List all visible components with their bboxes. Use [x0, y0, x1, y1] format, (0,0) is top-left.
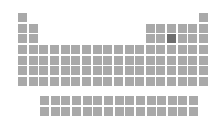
- element-cell-tl[interactable]: Tl: [146, 66, 155, 75]
- element-cell-ac[interactable]: Ac: [39, 77, 48, 86]
- element-cell-rn[interactable]: Rn: [199, 66, 208, 75]
- element-cell-tm[interactable]: Tm: [157, 96, 166, 105]
- element-cell-re[interactable]: Re: [82, 66, 91, 75]
- element-cell-cs[interactable]: Cs: [18, 66, 27, 75]
- element-cell-cd[interactable]: Cd: [135, 56, 144, 65]
- element-cell-at[interactable]: At: [188, 66, 197, 75]
- element-cell-ce[interactable]: Ce: [40, 96, 49, 105]
- element-cell-al[interactable]: Al: [146, 34, 155, 43]
- element-cell-hs[interactable]: Hs: [93, 77, 102, 86]
- element-cell-cf[interactable]: Cf: [125, 107, 134, 116]
- element-cell-i[interactable]: I: [188, 56, 197, 65]
- element-cell-lr[interactable]: Lr: [178, 107, 187, 116]
- element-cell-na[interactable]: Na: [18, 34, 27, 43]
- element-cell-ba[interactable]: Ba: [29, 66, 38, 75]
- element-cell-p[interactable]: P: [167, 34, 176, 43]
- element-cell-cn[interactable]: Cn: [135, 77, 144, 86]
- element-cell-sr[interactable]: Sr: [29, 56, 38, 65]
- element-cell-db[interactable]: Db: [61, 77, 70, 86]
- element-cell-mn[interactable]: Mn: [82, 45, 91, 54]
- element-cell-hf[interactable]: Hf: [50, 66, 59, 75]
- element-cell-hg[interactable]: Hg: [135, 66, 144, 75]
- element-cell-lv[interactable]: Lv: [178, 77, 187, 86]
- element-cell-pa[interactable]: Pa: [51, 107, 60, 116]
- element-cell-rh[interactable]: Rh: [103, 56, 112, 65]
- element-cell-pr[interactable]: Pr: [51, 96, 60, 105]
- element-cell-rb[interactable]: Rb: [18, 56, 27, 65]
- element-cell-no[interactable]: No: [168, 107, 177, 116]
- element-cell-fr[interactable]: Fr: [18, 77, 27, 86]
- element-cell-in[interactable]: In: [146, 56, 155, 65]
- element-cell-ga[interactable]: Ga: [146, 45, 155, 54]
- element-cell-ge[interactable]: Ge: [156, 45, 165, 54]
- element-cell-rf[interactable]: Rf: [50, 77, 59, 86]
- element-cell-s[interactable]: S: [178, 34, 187, 43]
- element-cell-ds[interactable]: Ds: [114, 77, 123, 86]
- element-cell-te[interactable]: Te: [178, 56, 187, 65]
- element-cell-c[interactable]: C: [156, 24, 165, 33]
- element-cell-he[interactable]: He: [199, 13, 208, 22]
- element-cell-co[interactable]: Co: [103, 45, 112, 54]
- element-cell-sc[interactable]: Sc: [39, 45, 48, 54]
- element-cell-as[interactable]: As: [167, 45, 176, 54]
- element-cell-v[interactable]: V: [61, 45, 70, 54]
- element-cell-gd[interactable]: Gd: [104, 96, 113, 105]
- element-cell-kr[interactable]: Kr: [199, 45, 208, 54]
- element-cell-zn[interactable]: Zn: [135, 45, 144, 54]
- element-cell-au[interactable]: Au: [125, 66, 134, 75]
- element-cell-cl[interactable]: Cl: [188, 34, 197, 43]
- element-cell-nh[interactable]: Nh: [146, 77, 155, 86]
- element-cell-pd[interactable]: Pd: [114, 56, 123, 65]
- element-cell-sg[interactable]: Sg: [71, 77, 80, 86]
- element-cell-th[interactable]: Th: [40, 107, 49, 116]
- element-cell-nd[interactable]: Nd: [61, 96, 70, 105]
- element-cell-ts[interactable]: Ts: [188, 77, 197, 86]
- element-cell-ho[interactable]: Ho: [136, 96, 145, 105]
- element-cell-fl[interactable]: Fl: [156, 77, 165, 86]
- element-cell-la[interactable]: La*: [189, 96, 198, 105]
- element-cell-pu[interactable]: Pu: [83, 107, 92, 116]
- element-cell-bh[interactable]: Bh: [82, 77, 91, 86]
- element-cell-bk[interactable]: Bk: [115, 107, 124, 116]
- element-cell-pb[interactable]: Pb: [156, 66, 165, 75]
- element-cell-ne[interactable]: Ne: [199, 24, 208, 33]
- element-cell-sb[interactable]: Sb: [167, 56, 176, 65]
- element-cell-u[interactable]: U: [61, 107, 70, 116]
- element-cell-md[interactable]: Md: [157, 107, 166, 116]
- element-cell-k[interactable]: K: [18, 45, 27, 54]
- element-cell-nb[interactable]: Nb: [61, 56, 70, 65]
- element-cell-la[interactable]: La: [39, 66, 48, 75]
- element-cell-am[interactable]: Am: [93, 107, 102, 116]
- element-cell-be[interactable]: Be: [29, 24, 38, 33]
- element-cell-eu[interactable]: Eu: [93, 96, 102, 105]
- element-cell-ag[interactable]: Ag: [125, 56, 134, 65]
- element-cell-og[interactable]: Og: [199, 77, 208, 86]
- element-cell-ru[interactable]: Ru: [93, 56, 102, 65]
- element-cell-mt[interactable]: Mt: [103, 77, 112, 86]
- element-cell-sn[interactable]: Sn: [156, 56, 165, 65]
- element-cell-pm[interactable]: Pm: [72, 96, 81, 105]
- element-cell-ac[interactable]: Ac*: [189, 107, 198, 116]
- element-cell-se[interactable]: Se: [178, 45, 187, 54]
- element-cell-ar[interactable]: Ar: [199, 34, 208, 43]
- element-cell-mo[interactable]: Mo: [71, 56, 80, 65]
- element-cell-fm[interactable]: Fm: [147, 107, 156, 116]
- element-cell-cu[interactable]: Cu: [125, 45, 134, 54]
- element-cell-es[interactable]: Es: [136, 107, 145, 116]
- element-cell-rg[interactable]: Rg: [125, 77, 134, 86]
- element-cell-dy[interactable]: Dy: [125, 96, 134, 105]
- element-cell-cm[interactable]: Cm: [104, 107, 113, 116]
- element-cell-ti[interactable]: Ti: [50, 45, 59, 54]
- element-cell-cr[interactable]: Cr: [71, 45, 80, 54]
- element-cell-br[interactable]: Br: [188, 45, 197, 54]
- element-cell-b[interactable]: B: [146, 24, 155, 33]
- element-cell-w[interactable]: W: [71, 66, 80, 75]
- element-cell-ta[interactable]: Ta: [61, 66, 70, 75]
- element-cell-po[interactable]: Po: [178, 66, 187, 75]
- element-cell-lu[interactable]: Lu: [178, 96, 187, 105]
- element-cell-xe[interactable]: Xe: [199, 56, 208, 65]
- element-cell-np[interactable]: Np: [72, 107, 81, 116]
- element-cell-li[interactable]: Li: [18, 24, 27, 33]
- element-cell-ir[interactable]: Ir: [103, 66, 112, 75]
- element-cell-y[interactable]: Y: [39, 56, 48, 65]
